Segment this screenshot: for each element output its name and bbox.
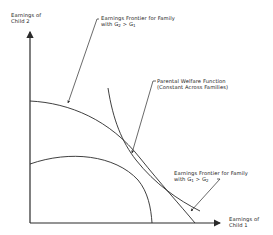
- x-axis-label: Earnings of Child 1: [229, 216, 259, 228]
- frontier-g2-gt-g1-label: Earnings Frontier for Family with G2 > G…: [101, 15, 175, 29]
- parental-welfare-curve: [108, 88, 200, 211]
- welfare-label-line2: (Constant Across Families): [157, 84, 228, 90]
- leader-frontier-g2: [68, 19, 99, 103]
- frontier-g1-gt-g2-curve: [30, 156, 152, 223]
- frontier-g1-gt-g2-label: Earnings Frontier for Family with G1 > G…: [174, 170, 248, 184]
- diagram-canvas: [0, 0, 273, 235]
- frontier-g2-gt-g1-curve: [30, 101, 195, 223]
- y-axis-label: Earnings of Child 2: [11, 12, 41, 24]
- frontier-g2-label-line2: with G2 > G1: [101, 21, 175, 29]
- y-axis-label-line2: Child 2: [11, 18, 41, 24]
- frontier-g1-label-line2: with G1 > G2: [174, 176, 248, 184]
- parental-welfare-label: Parental Welfare Function (Constant Acro…: [157, 78, 228, 90]
- x-axis-label-line2: Child 1: [229, 222, 259, 228]
- leader-welfare: [132, 81, 156, 153]
